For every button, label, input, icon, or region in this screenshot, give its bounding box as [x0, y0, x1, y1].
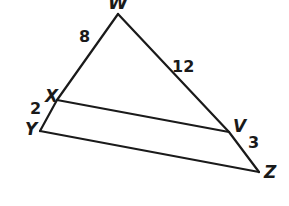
length-label-WV: 12	[172, 59, 195, 75]
vertex-label-X: X	[45, 88, 58, 105]
geometry-figure: W X Y V Z 8 12 2 3	[0, 0, 289, 206]
vertex-label-V: V	[233, 118, 246, 135]
vertex-label-W: W	[108, 0, 128, 12]
length-label-WX: 8	[79, 29, 90, 45]
vertex-label-Y: Y	[25, 121, 37, 138]
segment-WZ	[118, 14, 259, 172]
segment-YZ	[40, 131, 259, 172]
length-label-XY: 2	[30, 101, 41, 117]
length-label-VZ: 3	[248, 135, 259, 151]
vertex-label-Z: Z	[264, 164, 276, 181]
figure-canvas	[0, 0, 289, 206]
